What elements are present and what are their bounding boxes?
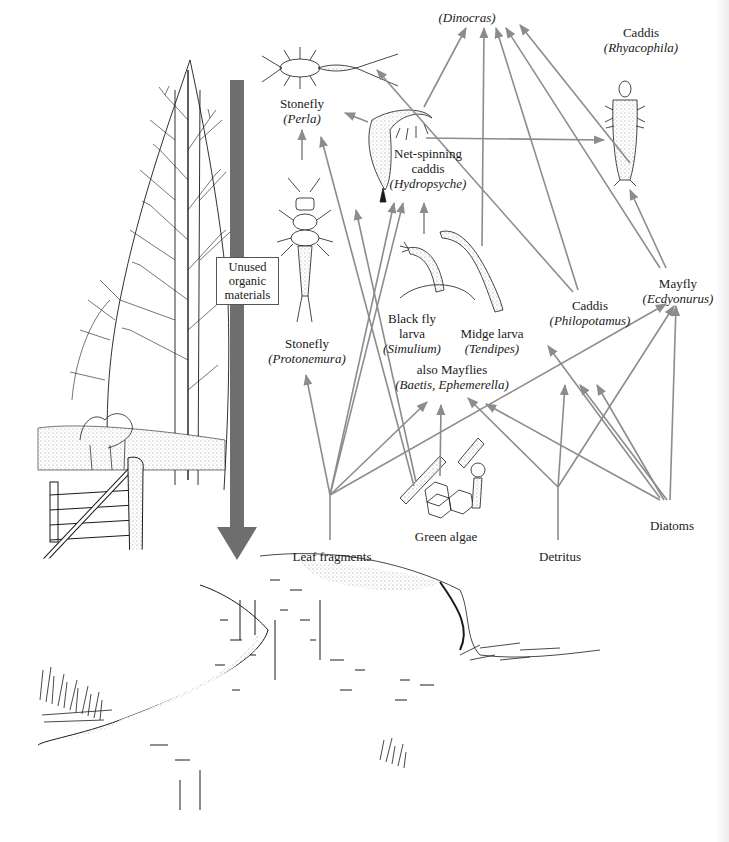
unused-organic-materials-label: Unused organic materials: [216, 257, 279, 305]
node-stonefly-perla: Stonefly (Perla): [280, 96, 324, 126]
caddis-rhyacophila-icon: [605, 81, 645, 186]
midge-larva-icon: [440, 231, 503, 312]
unused-organic-materials-arrow: [217, 80, 257, 560]
also-mayflies-genus: (Baetis, Ephemerella): [395, 377, 509, 392]
hydropsyche-name-line-1: Net-spinning: [390, 146, 467, 161]
ecdyonurus-genus: (Ecdyonurus): [643, 291, 714, 306]
stream-illustration: [0, 549, 600, 842]
food-web-diagram: (Dinocras) Caddis (Rhyacophila) Stonefly…: [0, 0, 729, 842]
node-midge-larva: Midge larva (Tendipes): [460, 326, 523, 356]
perla-name: Stonefly: [280, 96, 324, 111]
diatoms-label: Diatoms: [650, 518, 694, 533]
rhyacophila-name: Caddis: [604, 25, 678, 40]
detritus-label: Detritus: [539, 549, 581, 564]
unused-label-line-2: organic: [219, 274, 276, 288]
hydropsyche-genus: (Hydropsyche): [390, 176, 467, 191]
perla-genus: (Perla): [280, 111, 324, 126]
node-also-mayflies: also Mayflies (Baetis, Ephemerella): [395, 362, 509, 392]
black-fly-larva-icon: [400, 242, 475, 300]
leaf-fragments-label: Leaf fragments: [292, 549, 371, 564]
philopotamus-name: Caddis: [550, 298, 631, 313]
tendipes-genus: (Tendipes): [460, 341, 523, 356]
node-diatoms: Diatoms: [650, 518, 694, 533]
simulium-name-line-1: Black fly: [383, 311, 441, 326]
unused-label-line-3: materials: [219, 288, 276, 302]
node-caddis-philopotamus: Caddis (Philopotamus): [550, 298, 631, 328]
stonefly-perla-icon: [262, 47, 398, 89]
simulium-name-line-2: larva: [383, 326, 441, 341]
rhyacophila-genus: (Rhyacophila): [604, 40, 678, 55]
node-net-spinning-caddis: Net-spinning caddis (Hydropsyche): [390, 146, 467, 191]
simulium-genus: (Simulium): [383, 341, 441, 356]
hydropsyche-name-line-2: caddis: [390, 161, 467, 176]
node-dinocras: (Dinocras): [438, 10, 495, 25]
poplar-trees-illustration: [70, 60, 230, 490]
tendipes-name: Midge larva: [460, 326, 523, 341]
also-mayflies-name: also Mayflies: [395, 362, 509, 377]
protonemura-genus: (Protonemura): [268, 351, 346, 366]
green-algae-icon: [400, 438, 485, 518]
dinocras-genus: (Dinocras): [438, 10, 495, 25]
stonefly-protonemura-icon: [277, 178, 333, 322]
node-caddis-rhyacophila: Caddis (Rhyacophila): [604, 25, 678, 55]
node-mayfly-ecdyonurus: Mayfly (Ecdyonurus): [643, 276, 714, 306]
node-black-fly-larva: Black fly larva (Simulium): [383, 311, 441, 356]
protonemura-name: Stonefly: [268, 336, 346, 351]
node-green-algae: Green algae: [415, 529, 477, 544]
ecdyonurus-name: Mayfly: [643, 276, 714, 291]
node-stonefly-protonemura: Stonefly (Protonemura): [268, 336, 346, 366]
node-detritus: Detritus: [539, 549, 581, 564]
philopotamus-genus: (Philopotamus): [550, 313, 631, 328]
unused-label-line-1: Unused: [219, 260, 276, 274]
illustration-layer: [0, 0, 729, 842]
node-leaf-fragments: Leaf fragments: [292, 549, 371, 564]
green-algae-label: Green algae: [415, 529, 477, 544]
